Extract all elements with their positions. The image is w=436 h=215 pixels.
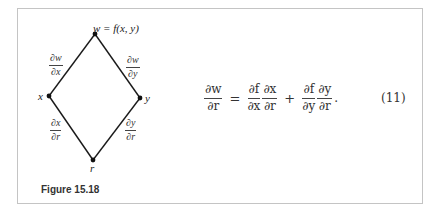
node-r-label: r xyxy=(90,163,94,174)
plus-sign: + xyxy=(284,91,295,106)
fraction-denominator: ∂r xyxy=(126,131,135,143)
fraction-denominator: ∂r xyxy=(207,99,219,113)
fraction-numerator: ∂w xyxy=(204,83,222,98)
fraction-denominator: ∂y xyxy=(128,68,137,80)
node-x-dot xyxy=(47,94,52,99)
fraction-denominator: ∂r xyxy=(264,99,276,113)
node-y-label: y xyxy=(145,93,150,104)
fraction-numerator: ∂y xyxy=(317,83,332,98)
fraction-numerator: ∂x xyxy=(50,118,61,131)
term1-fraction-b: ∂x ∂r xyxy=(262,83,277,112)
equals-sign: = xyxy=(229,91,240,106)
fraction-numerator: ∂x xyxy=(262,83,277,98)
fraction-denominator: ∂x xyxy=(51,66,60,78)
fraction-denominator: ∂r xyxy=(51,131,60,143)
term1-fraction-a: ∂f ∂x xyxy=(247,83,260,112)
fraction-numerator: ∂w xyxy=(49,53,63,66)
fraction-numerator: ∂y xyxy=(125,118,136,131)
lhs-fraction: ∂w ∂r xyxy=(204,83,222,112)
node-y-dot xyxy=(138,96,143,101)
node-w-label: w = f(x, y) xyxy=(93,23,139,34)
fraction-denominator: ∂y xyxy=(302,99,315,113)
edge-label-dy-dr: ∂y ∂r xyxy=(125,118,136,142)
node-x-label: x xyxy=(38,91,43,102)
term2-fraction-b: ∂y ∂r xyxy=(317,83,332,112)
fraction-numerator: ∂w xyxy=(126,55,140,68)
chain-rule-equation: ∂w ∂r = ∂f ∂x ∂x ∂r + ∂f ∂y ∂y ∂r . xyxy=(203,81,338,115)
fraction-denominator: ∂r xyxy=(319,99,331,113)
edge-label-dw-dy: ∂w ∂y xyxy=(126,55,140,79)
edge-label-dx-dr: ∂x ∂r xyxy=(50,118,61,142)
period: . xyxy=(334,91,338,105)
equation-number: (11) xyxy=(381,91,406,105)
edge-label-dw-dx: ∂w ∂x xyxy=(49,53,63,77)
fraction-numerator: ∂f xyxy=(248,83,261,98)
fraction-denominator: ∂x xyxy=(247,99,260,113)
term2-fraction-a: ∂f ∂y xyxy=(302,83,315,112)
fraction-numerator: ∂f xyxy=(302,83,315,98)
figure-caption: Figure 15.18 xyxy=(41,184,99,195)
